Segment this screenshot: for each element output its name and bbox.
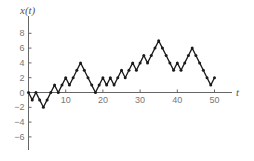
data-point (142, 54, 145, 57)
y-tick-label: −6 (14, 132, 24, 142)
y-tick-label: 6 (19, 43, 24, 53)
data-point (209, 84, 212, 87)
data-point (49, 91, 52, 94)
data-point (206, 76, 209, 79)
data-point (116, 76, 119, 79)
data-point (98, 84, 101, 87)
data-point (135, 69, 138, 72)
y-tick-label: 2 (19, 73, 24, 83)
data-point (131, 61, 134, 64)
data-point (187, 54, 190, 57)
data-point (168, 61, 171, 64)
data-point (165, 54, 168, 57)
data-point (113, 84, 116, 87)
axis-ticks: 86420−2−4−61020304050 (14, 28, 219, 142)
data-point (87, 76, 90, 79)
data-point (64, 76, 67, 79)
data-series (27, 39, 216, 109)
data-point (146, 61, 149, 64)
series-line (29, 41, 215, 108)
data-point (109, 76, 112, 79)
data-point (150, 54, 153, 57)
data-point (180, 69, 183, 72)
x-tick-label: 20 (98, 95, 108, 105)
data-point (27, 91, 30, 94)
axes (29, 16, 233, 150)
y-tick-label: 4 (19, 58, 24, 68)
x-tick-label: 10 (61, 95, 71, 105)
data-point (172, 69, 175, 72)
y-tick-label: −4 (14, 117, 24, 127)
data-point (194, 54, 197, 57)
random-walk-chart: 86420−2−4−61020304050 x(t) t (0, 0, 254, 161)
data-point (57, 91, 60, 94)
data-point (127, 69, 130, 72)
data-point (161, 47, 164, 50)
x-tick-label: 40 (172, 95, 182, 105)
data-point (72, 76, 75, 79)
data-point (139, 61, 142, 64)
data-point (198, 61, 201, 64)
x-tick-label: 30 (135, 95, 145, 105)
y-tick-label: −2 (14, 102, 24, 112)
data-point (31, 98, 34, 101)
data-point (75, 69, 78, 72)
data-point (68, 84, 71, 87)
data-point (153, 47, 156, 50)
data-point (94, 91, 97, 94)
data-point (60, 84, 63, 87)
data-point (46, 98, 49, 101)
data-point (90, 84, 93, 87)
data-point (53, 84, 56, 87)
data-point (38, 98, 41, 101)
data-point (42, 106, 45, 109)
data-point (83, 69, 86, 72)
x-axis-title: t (236, 86, 240, 98)
data-point (124, 76, 127, 79)
y-axis-title: x(t) (19, 4, 36, 17)
y-tick-label: 8 (19, 28, 24, 38)
data-point (176, 61, 179, 64)
data-point (79, 61, 82, 64)
data-point (120, 69, 123, 72)
x-tick-label: 50 (209, 95, 219, 105)
data-point (202, 69, 205, 72)
data-point (213, 76, 216, 79)
data-point (183, 61, 186, 64)
data-point (191, 47, 194, 50)
data-point (34, 91, 37, 94)
y-tick-label: 0 (19, 88, 24, 98)
data-point (101, 76, 104, 79)
data-point (105, 84, 108, 87)
data-point (157, 39, 160, 42)
